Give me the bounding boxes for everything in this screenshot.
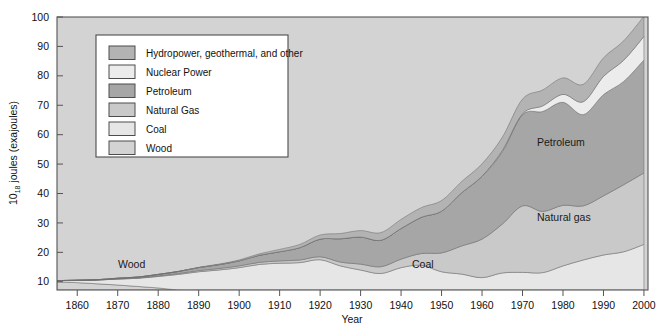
y-tick-label: 30 <box>37 217 49 229</box>
x-tick-label: 1980 <box>551 299 575 311</box>
legend-label: Wood <box>146 143 172 154</box>
legend: Hydropower, geothermal, and otherNuclear… <box>96 35 303 157</box>
x-tick-label: 1890 <box>187 299 211 311</box>
legend-swatch <box>109 46 135 60</box>
legend-label: Coal <box>146 124 167 135</box>
x-tick-label: 1990 <box>592 299 616 311</box>
x-tick-label: 1900 <box>227 299 251 311</box>
x-tick-label: 1960 <box>470 299 494 311</box>
x-tick-label: 1970 <box>511 299 535 311</box>
legend-label: Petroleum <box>146 86 192 97</box>
x-axis-title: Year <box>341 313 363 325</box>
y-tick-label: 90 <box>37 40 49 52</box>
series-annotation-petroleum: Petroleum <box>537 136 585 148</box>
chart-svg: 102030405060708090100 186018701880189019… <box>0 0 661 334</box>
legend-swatch <box>109 65 135 79</box>
series-annotation-natural-gas: Natural gas <box>537 211 591 223</box>
y-tick-label: 20 <box>37 246 49 258</box>
y-tick-label: 100 <box>31 11 49 23</box>
legend-swatch <box>109 103 135 117</box>
y-tick-label: 60 <box>37 128 49 140</box>
x-tick-label: 1920 <box>308 299 332 311</box>
y-tick-label: 40 <box>37 187 49 199</box>
x-tick-label: 1940 <box>389 299 413 311</box>
y-tick-label: 80 <box>37 69 49 81</box>
x-tick-label: 2000 <box>632 299 656 311</box>
y-axis-title-exponent: 18 <box>14 185 21 193</box>
legend-label: Hydropower, geothermal, and other <box>146 48 303 59</box>
x-tick-label: 1930 <box>349 299 373 311</box>
x-tick-label: 1880 <box>147 299 171 311</box>
y-tick-label: 10 <box>37 275 49 287</box>
y-tick-label: 50 <box>37 158 49 170</box>
legend-swatch <box>109 141 135 155</box>
x-tick-label: 1910 <box>268 299 292 311</box>
series-annotation-wood: Wood <box>118 258 145 270</box>
legend-label: Nuclear Power <box>146 67 212 78</box>
x-tick-label: 1860 <box>66 299 90 311</box>
y-axis-title-rest: joules (exajoules) <box>7 101 19 186</box>
series-annotation-coal: Coal <box>412 258 434 270</box>
x-tick-label: 1870 <box>106 299 130 311</box>
x-tick-label: 1950 <box>430 299 454 311</box>
y-tick-label: 70 <box>37 99 49 111</box>
legend-swatch <box>109 122 135 136</box>
legend-swatch <box>109 84 135 98</box>
y-axis-title-base: 10 <box>7 193 19 205</box>
legend-label: Natural Gas <box>146 105 199 116</box>
